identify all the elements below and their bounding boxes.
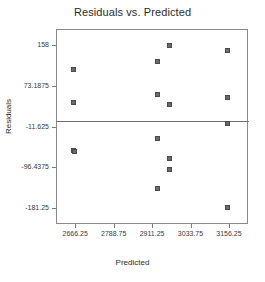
- data-point: [71, 67, 76, 72]
- data-point: [225, 205, 230, 210]
- y-tick-mark: [52, 208, 56, 209]
- y-tick-mark: [52, 45, 56, 46]
- x-tick-mark: [75, 224, 76, 228]
- y-tick-mark: [52, 167, 56, 168]
- x-tick-mark: [114, 224, 115, 228]
- data-point: [225, 48, 230, 53]
- data-point: [167, 167, 172, 172]
- y-tick-label: -181.25: [0, 204, 49, 212]
- chart-title: Residuals vs. Predicted: [0, 6, 265, 18]
- x-axis-label: Predicted: [0, 258, 265, 267]
- data-point: [167, 156, 172, 161]
- zero-reference-line: [56, 121, 249, 122]
- y-tick-mark: [52, 127, 56, 128]
- data-point: [155, 136, 160, 141]
- data-point: [167, 43, 172, 48]
- data-point: [225, 121, 230, 126]
- plot-area: [56, 29, 248, 224]
- x-tick-mark: [191, 224, 192, 228]
- data-point: [72, 149, 77, 154]
- data-point: [167, 102, 172, 107]
- y-tick-label: 158: [0, 41, 49, 49]
- data-point: [225, 95, 230, 100]
- data-point: [155, 92, 160, 97]
- residuals-vs-predicted-chart: Residuals vs. Predicted 15873.1875-11.62…: [0, 0, 265, 282]
- data-point: [155, 59, 160, 64]
- y-tick-label: -96.4375: [0, 163, 49, 171]
- y-tick-mark: [52, 86, 56, 87]
- x-tick-mark: [229, 224, 230, 228]
- x-tick-label: 3156.25: [206, 230, 252, 238]
- data-point: [155, 186, 160, 191]
- y-axis-label: Residuals: [4, 87, 13, 147]
- data-point: [71, 100, 76, 105]
- x-tick-mark: [152, 224, 153, 228]
